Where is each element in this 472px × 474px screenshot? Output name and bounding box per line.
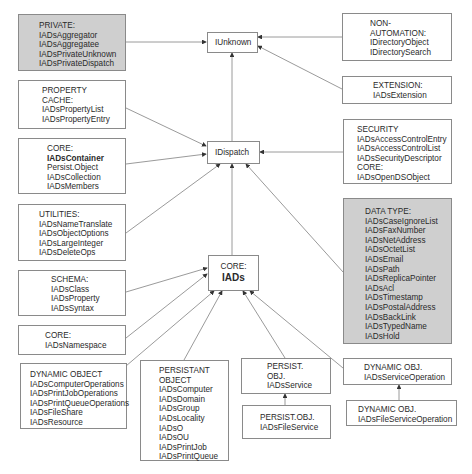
interface-name: IADsLocality (159, 414, 218, 424)
dynamic-service-operation-node: DYNAMIC OBJ. IADsServiceOperation (343, 358, 452, 385)
schema-node: SCHEMA: IADsClass IADsProperty IADsSynta… (18, 270, 126, 316)
node-category: DYNAMIC OBJ. (364, 363, 445, 373)
node-category: EXTENSION: (373, 81, 427, 91)
interface-name: IADsPrivateUnknown (39, 50, 116, 60)
interface-name: IADsNetAddress (365, 236, 438, 246)
interface-name: IADsAcl (365, 284, 438, 294)
node-label: IDispatch (215, 148, 249, 158)
node-category: PROPERTY (42, 86, 110, 96)
node-category: DATA TYPE: (365, 207, 438, 217)
persist-file-service-node: PERSIST.OBJ. IADsFileService (242, 405, 331, 439)
core-namespace-node: CORE: IADsNamespace (18, 325, 126, 355)
core-container-node: CORE: IADsContainer Persist.Object IADsC… (18, 138, 126, 194)
interface-name: IADsFileServiceOperation (358, 415, 452, 425)
interface-name: IADsDeleteOps (39, 248, 112, 258)
node-category: NON- (370, 19, 431, 29)
interface-name: IADsDomain (159, 395, 218, 405)
node-category: OBJ. (267, 372, 312, 382)
node-label: IUnknown (215, 38, 251, 48)
interface-name: IADsHold (365, 332, 438, 342)
interface-name: IADsContainer (47, 154, 104, 164)
dynamic-object-node: DYNAMIC OBJECT IADsComputerOperations IA… (20, 363, 127, 429)
interface-name: Persist.Object (47, 163, 104, 173)
node-category: PERSIST. (267, 362, 312, 372)
node-category: CACHE: (42, 96, 110, 106)
node-category: CORE: (45, 331, 106, 341)
interface-name: IADsOpenDSObject (357, 173, 447, 183)
interface-name: IADsSyntax (51, 304, 100, 314)
interface-name: IADsNameTranslate (39, 220, 112, 230)
node-category: UTILITIES: (39, 210, 112, 220)
interface-name: IADsFileShare (30, 408, 129, 418)
idispatch-node: IDispatch (207, 141, 260, 164)
interface-name: IADsReplicaPointer (365, 274, 438, 284)
interface-name: IADsCollection (47, 173, 104, 183)
interface-name: IADsPropertyEntry (42, 115, 110, 125)
interface-name: IADsFaxNumber (365, 226, 438, 236)
interface-name: IADsAggregator (39, 31, 116, 41)
interface-name: IADsTimestamp (365, 293, 438, 303)
private-interfaces-node: PRIVATE: IADsAggregator IADsAggregatee I… (18, 14, 126, 71)
interface-name: IADsPrintQueueOperations (30, 399, 129, 409)
node-category: DYNAMIC OBJ. (358, 405, 452, 415)
interface-name: IADsPropertyList (42, 105, 110, 115)
interface-name: IADsComputer (159, 385, 218, 395)
node-category: OBJECT (159, 376, 218, 386)
interface-name: IADsMembers (47, 182, 104, 192)
node-category: PERSISTANT (159, 366, 218, 376)
interface-name: IDirectorySearch (370, 48, 431, 58)
interface-name: IADsAccessControlList (357, 144, 447, 154)
security-node: SECURITY IADsAccessControlEntry IADsAcce… (343, 119, 452, 184)
node-category: CORE: (209, 262, 258, 272)
interface-name: IADsResource (30, 418, 129, 428)
interface-name: IADsOU (159, 433, 218, 443)
interface-name: IADsComputerOperations (30, 380, 129, 390)
extension-node: EXTENSION: IADsExtension (342, 76, 452, 104)
interface-name: IADsO (159, 424, 218, 434)
interface-name: IADsService (267, 381, 312, 391)
node-category: SECURITY (357, 125, 447, 135)
node-category: SCHEMA: (51, 275, 100, 285)
interface-name: IADsPath (365, 265, 438, 275)
interface-name: IADsOctetList (365, 245, 438, 255)
persist-service-node: PERSIST. OBJ. IADsService (241, 358, 331, 394)
interface-name: IADsBackLink (365, 313, 438, 323)
interface-name: IADsTypedName (365, 322, 438, 332)
interface-name: IADsSecurityDescriptor (357, 154, 447, 164)
interface-name: IADsLargeInteger (39, 239, 112, 249)
dynamic-file-service-operation-node: DYNAMIC OBJ. IADsFileServiceOperation (346, 400, 457, 426)
interface-name: IADsObjectOptions (39, 229, 112, 239)
iads-core-node: CORE: IADs (208, 255, 259, 291)
node-category: AUTOMATION: (370, 29, 431, 39)
node-category: CORE: (357, 163, 447, 173)
persistant-object-node: PERSISTANT OBJECT IADsComputer IADsDomai… (140, 360, 229, 461)
node-label: IADs (209, 272, 258, 284)
data-type-node: DATA TYPE: IADsCaseIgnoreList IADsFaxNum… (343, 198, 452, 344)
interface-name: IADsPostalAddress (365, 303, 438, 313)
node-category: PERSIST.OBJ. (260, 413, 318, 423)
non-automation-node: NON- AUTOMATION: IDirectoryObject IDirec… (342, 13, 452, 61)
node-category: PRIVATE: (39, 21, 116, 31)
interface-name: IADsPrivateDispatch (39, 59, 116, 69)
property-cache-node: PROPERTY CACHE: IADsPropertyList IADsPro… (18, 80, 126, 129)
interface-name: IADsClass (51, 285, 100, 295)
interface-name: IADsNamespace (45, 341, 106, 351)
iunknown-node: IUnknown (207, 32, 258, 53)
interface-name: IDirectoryObject (370, 38, 431, 48)
interface-name: IADsGroup (159, 404, 218, 414)
interface-name: IADsAccessControlEntry (357, 135, 447, 145)
interface-name: IADsEmail (365, 255, 438, 265)
node-category: CORE: (47, 144, 104, 154)
interface-name: IADsPrintJob (159, 443, 218, 453)
interface-name: IADsPrintJobOperations (30, 389, 129, 399)
interface-name: IADsAggregatee (39, 40, 116, 50)
interface-name: IADsCaseIgnoreList (365, 217, 438, 227)
interface-name: IADsExtension (373, 91, 427, 101)
interface-name: IADsFileService (260, 423, 318, 433)
utilities-node: UTILITIES: IADsNameTranslate IADsObjectO… (18, 204, 126, 261)
node-category: DYNAMIC OBJECT (30, 370, 129, 380)
interface-name: IADsProperty (51, 294, 100, 304)
interface-name: IADsServiceOperation (364, 373, 445, 383)
interface-name: IADsPrintQueue (159, 452, 218, 462)
